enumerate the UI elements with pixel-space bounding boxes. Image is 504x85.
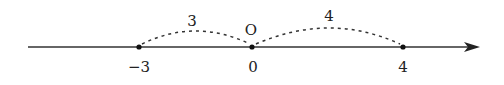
point-0: [249, 44, 254, 49]
arc-label-3: 3: [187, 12, 197, 30]
arc-neg3-to-0: [142, 31, 250, 44]
number-line-diagram: −3 0 4 O 3 4: [0, 0, 504, 85]
arc-label-4: 4: [324, 7, 334, 25]
origin-label: O: [245, 21, 257, 39]
arc-0-to-4: [256, 28, 400, 44]
tick-label-0: 0: [248, 58, 258, 76]
point-neg3: [136, 44, 141, 49]
tick-label-4: 4: [398, 58, 408, 76]
tick-label-neg3: −3: [128, 58, 150, 76]
point-4: [400, 44, 405, 49]
